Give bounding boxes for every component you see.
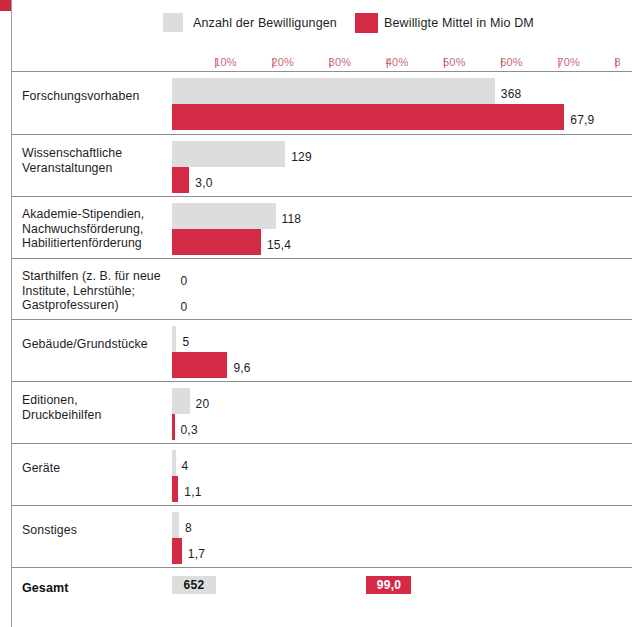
- bar-funds-value: 1,7: [188, 547, 205, 561]
- axis-tick-label: 50%: [443, 56, 466, 68]
- chart-container: Anzahl der Bewilligungen Bewilligte Mitt…: [0, 0, 632, 627]
- chart-row: Forschungsvorhaben36867,9: [11, 72, 632, 135]
- bar-count-value: 5: [182, 335, 189, 349]
- axis-tick-mark-icon: |: [271, 56, 274, 68]
- bar-count: [172, 450, 176, 476]
- bar-funds: [172, 414, 175, 440]
- row-category-label: Forschungsvorhaben: [22, 89, 139, 104]
- axis-tick-6: |60%: [500, 56, 523, 68]
- row-category-label: Starthilfen (z. B. für neue Institute, L…: [22, 269, 161, 313]
- total-label: Gesamt: [22, 581, 68, 595]
- bar-funds: [172, 229, 261, 255]
- axis-tick-label: 30%: [329, 56, 352, 68]
- bar-funds-value: 3,0: [195, 176, 212, 190]
- bar-count: [172, 203, 276, 229]
- row-category-label: Gebäude/Grundstücke: [22, 337, 148, 352]
- legend-label-counts: Anzahl der Bewilligungen: [193, 16, 337, 30]
- chart-row: Editionen, Druckbeihilfen200,3: [11, 382, 632, 444]
- bar-funds: [172, 538, 182, 564]
- total-row: Gesamt 652 99,0: [11, 568, 632, 627]
- axis-tick-mark-icon: |: [386, 56, 389, 68]
- legend-swatch-gray-icon: [163, 13, 183, 32]
- legend-swatch-red-icon: [355, 13, 378, 33]
- chart-row: Akademie-Stipendien, Nachwuchsförderung,…: [11, 197, 632, 259]
- row-category-label: Sonstiges: [22, 523, 77, 538]
- chart-row: Starthilfen (z. B. für neue Institute, L…: [11, 259, 632, 320]
- bar-count-value: 368: [501, 87, 522, 101]
- axis-tick-label: 70%: [557, 56, 580, 68]
- legend-label-funds: Bewilligte Mittel in Mio DM: [384, 16, 534, 30]
- chart-row: Sonstiges81,7: [11, 506, 632, 568]
- bar-funds: [172, 352, 227, 378]
- bar-funds-value: 1,1: [184, 485, 201, 499]
- axis-tick-mark-icon: |: [443, 56, 446, 68]
- total-funds-box: 99,0: [366, 576, 411, 594]
- bar-count: [172, 512, 179, 538]
- axis-tick-label: 10%: [214, 56, 237, 68]
- chart-row: Gebäude/Grundstücke59,6: [11, 320, 632, 382]
- axis-tick-label: 60%: [500, 56, 523, 68]
- bar-count-value: 0: [181, 274, 188, 288]
- axis-tick-8: |8: [615, 56, 621, 68]
- bar-funds-value: 15,4: [267, 238, 291, 252]
- axis-tick-label: 20%: [271, 56, 294, 68]
- axis-tick-4: |40%: [386, 56, 409, 68]
- bar-count: [172, 326, 176, 352]
- bar-count: [172, 78, 495, 104]
- axis-tick-5: |50%: [443, 56, 466, 68]
- legend-item-funds: Bewilligte Mittel in Mio DM: [355, 13, 534, 33]
- bar-count: [172, 141, 285, 167]
- bar-count-value: 20: [196, 397, 210, 411]
- axis-tick-7: |70%: [557, 56, 580, 68]
- bar-count-value: 8: [185, 521, 192, 535]
- axis-tick-mark-icon: |: [615, 56, 618, 68]
- axis-tick-mark-icon: |: [214, 56, 217, 68]
- axis-tick-3: |30%: [329, 56, 352, 68]
- row-category-label: Wissenschaftliche Veranstaltungen: [22, 146, 122, 175]
- axis-tick-2: |20%: [271, 56, 294, 68]
- axis-tick-mark-icon: |: [500, 56, 503, 68]
- bar-funds-value: 0,3: [181, 423, 198, 437]
- row-category-label: Akademie-Stipendien, Nachwuchsförderung,…: [22, 207, 144, 251]
- chart-row: Wissenschaftliche Veranstaltungen1293,0: [11, 135, 632, 197]
- bar-count-value: 4: [182, 459, 189, 473]
- legend-item-counts: Anzahl der Bewilligungen: [163, 13, 337, 32]
- chart-row: Geräte41,1: [11, 444, 632, 506]
- bar-funds-value: 9,6: [233, 361, 250, 375]
- row-category-label: Geräte: [22, 461, 60, 476]
- bar-funds: [172, 476, 178, 502]
- axis-tick-mark-icon: |: [329, 56, 332, 68]
- bar-count: [172, 388, 190, 414]
- bar-count-value: 118: [282, 212, 302, 226]
- bar-funds-value: 67,9: [570, 113, 594, 127]
- percent-axis: |10%|20%|30%|40%|50%|60%|70%|8: [0, 56, 632, 71]
- bar-funds: [172, 104, 564, 130]
- row-category-label: Editionen, Druckbeihilfen: [22, 393, 101, 422]
- total-count-box: 652: [172, 576, 216, 594]
- bar-funds-value: 0: [181, 300, 188, 314]
- axis-tick-1: |10%: [214, 56, 237, 68]
- bar-funds: [172, 167, 189, 193]
- axis-tick-mark-icon: |: [557, 56, 560, 68]
- bar-count-value: 129: [291, 150, 312, 164]
- axis-tick-label: 40%: [386, 56, 409, 68]
